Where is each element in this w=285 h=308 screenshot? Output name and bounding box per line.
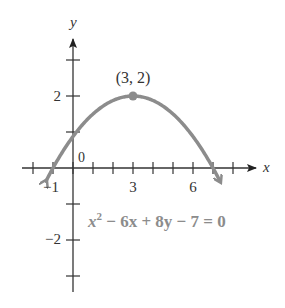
vertex-point — [129, 92, 138, 101]
parabola-chart: y x 0 −1 3 6 2 −2 (3, 2) x2 − 6x + 8y − … — [0, 0, 285, 308]
y-axis-label: y — [68, 14, 77, 30]
y-tick-label-neg2: −2 — [45, 231, 61, 247]
equation-label: x2 − 6x + 8y − 7 = 0 — [87, 210, 226, 231]
origin-label: 0 — [78, 150, 85, 165]
vertex-label: (3, 2) — [116, 69, 151, 87]
x-axis-label: x — [262, 159, 270, 175]
y-axis — [66, 39, 80, 292]
x-tick-label-6: 6 — [189, 179, 197, 195]
x-tick-label-3: 3 — [129, 179, 137, 195]
y-tick-label-2: 2 — [54, 88, 62, 104]
equation-x: x — [87, 212, 97, 231]
equation-rest: − 6x + 8y − 7 = 0 — [102, 212, 226, 231]
x-tick-label-neg1: −1 — [43, 179, 59, 195]
